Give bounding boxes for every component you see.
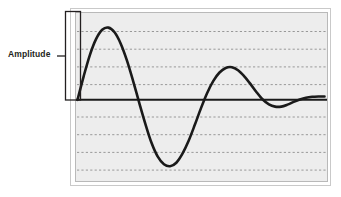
amplitude-label: Amplitude: [8, 49, 50, 59]
waveform-svg: [0, 0, 341, 197]
plot-panel: [76, 13, 328, 182]
amplitude-waveform-figure: [0, 0, 341, 197]
